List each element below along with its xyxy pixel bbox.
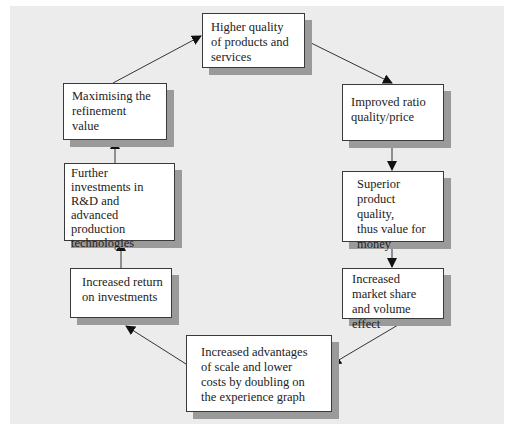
node-superior-quality: Superior product quality, thus value for… [342, 171, 444, 242]
edge-maximising-to-higher-quality [113, 36, 201, 83]
node-scale-advantages: Increased advantages of scale and lower … [186, 335, 332, 412]
node-label: Superior product quality, thus value for… [357, 177, 435, 252]
node-label: Increased return on investments [82, 275, 163, 305]
node-label: Higher quality of products and services [211, 20, 296, 65]
node-maximising-value: Maximising the refinement value [63, 83, 167, 140]
node-return-on-investments: Increased return on investments [70, 268, 172, 318]
node-label: Further investments in R&D and advanced … [71, 166, 166, 250]
node-label: Improved ratio quality/price [351, 95, 435, 125]
node-label: Increased market share and volume effect [352, 272, 435, 332]
node-higher-quality: Higher quality of products and services [202, 13, 305, 68]
node-further-investments: Further investments in R&D and advanced … [64, 163, 175, 241]
node-label: Maximising the refinement value [72, 89, 158, 134]
node-label: Increased advantages of scale and lower … [201, 345, 323, 405]
node-improved-ratio: Improved ratio quality/price [342, 84, 444, 141]
edge-higher-quality-to-improved-ratio [305, 40, 392, 83]
node-market-share: Increased market share and volume effect [342, 268, 444, 319]
edge-scale-advantages-to-return [126, 326, 186, 364]
